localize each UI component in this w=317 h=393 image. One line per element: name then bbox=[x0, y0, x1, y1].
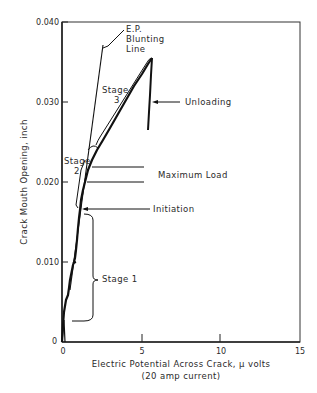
ep-label-2: Blunting bbox=[126, 34, 165, 44]
y-ticks bbox=[62, 22, 68, 262]
unloading-arrowhead-icon bbox=[152, 100, 158, 104]
y-axis-label: Crack Mouth Opening, inch bbox=[19, 119, 29, 244]
stage3-label-b: 3 bbox=[114, 95, 120, 105]
crack-opening-curve bbox=[62, 58, 152, 342]
x-tick-label-5: 5 bbox=[139, 347, 144, 356]
y-tick-label-0030: 0.030 bbox=[36, 98, 59, 107]
x-ticks bbox=[142, 334, 220, 342]
unloading-label: Unloading bbox=[185, 97, 232, 107]
initiation-arrowhead-icon bbox=[82, 207, 88, 211]
ep-label-1: E.P. bbox=[126, 24, 142, 34]
x-tick-label-0: 0 bbox=[60, 347, 65, 356]
x-axis-sublabel: (20 amp current) bbox=[142, 371, 221, 381]
stage1-bracket bbox=[72, 214, 98, 321]
y-tick-label-0: 0 bbox=[52, 337, 57, 346]
chart: 0.040 0.030 0.020 0.010 0 0 5 10 15 Elec… bbox=[0, 0, 317, 393]
x-tick-label-15: 15 bbox=[295, 347, 305, 356]
y-tick-label-0040: 0.040 bbox=[36, 18, 59, 27]
unloading-curve bbox=[148, 58, 152, 130]
stage3-label-a: Stage bbox=[102, 85, 129, 95]
blunting-leader bbox=[103, 30, 124, 48]
stage1-label: Stage 1 bbox=[102, 274, 137, 284]
initiation-label: Initiation bbox=[153, 204, 194, 214]
y-tick-label-0020: 0.020 bbox=[36, 178, 59, 187]
x-tick-label-10: 10 bbox=[216, 347, 226, 356]
x-axis-label: Electric Potential Across Crack, μ volts bbox=[92, 359, 271, 369]
stage2-label-a: Stage bbox=[64, 156, 91, 166]
y-tick-label-0010: 0.010 bbox=[36, 258, 59, 267]
ep-label-3: Line bbox=[126, 44, 145, 54]
max-load-label: Maximum Load bbox=[158, 170, 228, 180]
stage2-label-b: 2 bbox=[74, 166, 80, 176]
